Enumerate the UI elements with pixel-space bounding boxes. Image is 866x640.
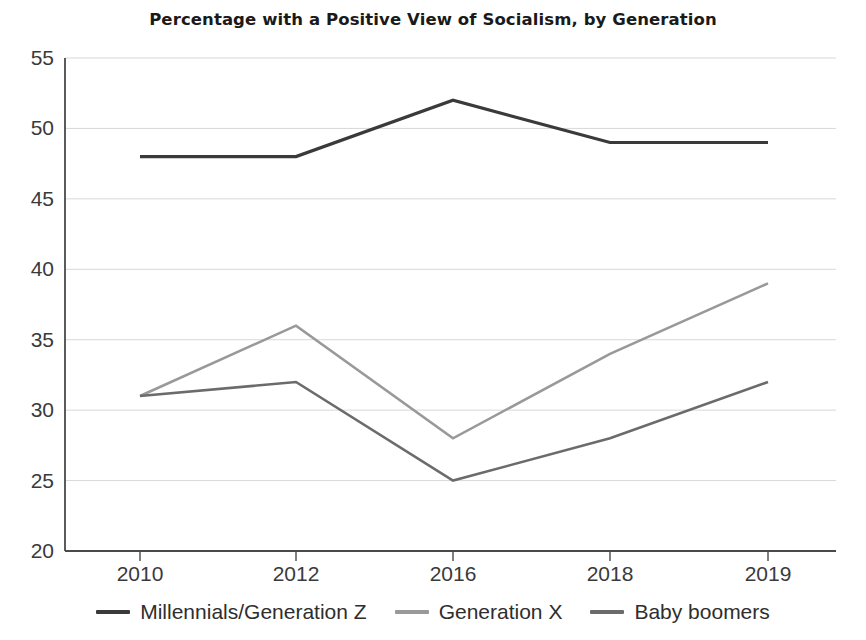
legend-item[interactable]: Millennials/Generation Z [96, 600, 366, 624]
x-tick-marks-group [140, 551, 768, 561]
series-line-3 [140, 382, 768, 481]
x-tick-label: 2019 [718, 562, 818, 586]
y-tick-label: 50 [8, 116, 54, 140]
legend-swatch-icon [395, 610, 429, 614]
y-tick-label: 25 [8, 469, 54, 493]
y-tick-label: 35 [8, 328, 54, 352]
y-tick-label: 55 [8, 46, 54, 70]
data-series-group [140, 100, 768, 480]
legend-swatch-icon [590, 610, 624, 614]
gridlines-group [65, 58, 836, 481]
legend-label: Millennials/Generation Z [140, 600, 366, 624]
y-tick-label: 30 [8, 398, 54, 422]
chart-container: Percentage with a Positive View of Socia… [0, 0, 866, 640]
y-tick-label: 20 [8, 539, 54, 563]
legend-label: Generation X [439, 600, 563, 624]
x-tick-label: 2018 [560, 562, 660, 586]
chart-legend: Millennials/Generation ZGeneration XBaby… [0, 600, 866, 624]
legend-label: Baby boomers [634, 600, 769, 624]
y-tick-label: 45 [8, 187, 54, 211]
x-tick-label: 2012 [246, 562, 346, 586]
x-tick-label: 2016 [403, 562, 503, 586]
legend-item[interactable]: Generation X [395, 600, 563, 624]
x-tick-label: 2010 [90, 562, 190, 586]
legend-swatch-icon [96, 610, 130, 614]
y-tick-label: 40 [8, 257, 54, 281]
chart-plot-area [0, 0, 866, 640]
legend-item[interactable]: Baby boomers [590, 600, 769, 624]
